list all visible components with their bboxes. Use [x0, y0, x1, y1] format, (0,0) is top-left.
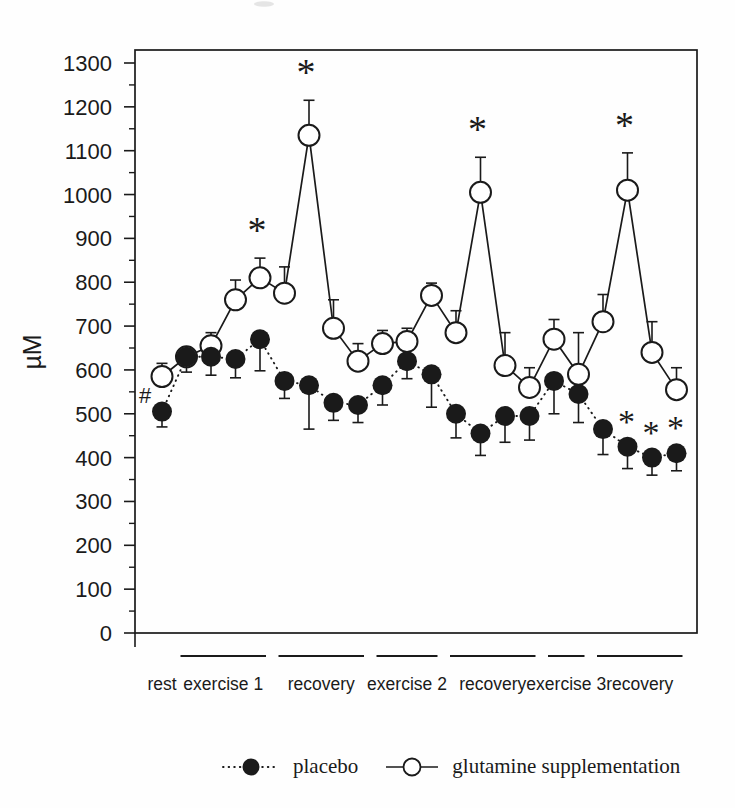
- y-axis-tick-label: 100: [75, 577, 112, 602]
- phase-label: recovery: [288, 674, 355, 694]
- placebo-series-key-icon: [222, 755, 280, 779]
- glutamine-data-point: [421, 285, 442, 306]
- legend-label-placebo: placebo: [293, 754, 358, 779]
- y-axis-tick-label: 1300: [63, 51, 112, 76]
- glutamine-significance-asterisk: *: [468, 108, 487, 150]
- y-axis-tick-label: 200: [75, 533, 112, 558]
- hash-annotation: #: [139, 383, 152, 408]
- glutamine-data-point: [274, 283, 295, 304]
- y-axis-title: µM: [18, 334, 46, 369]
- y-axis-tick-label: 400: [75, 446, 112, 471]
- placebo-data-point: [177, 347, 197, 367]
- y-axis-tick-label: 300: [75, 489, 112, 514]
- glutamine-data-point: [495, 355, 516, 376]
- glutamine-data-point: [642, 342, 663, 363]
- placebo-data-point: [495, 406, 515, 426]
- placebo-data-point: [397, 351, 417, 371]
- placebo-data-point: [250, 329, 270, 349]
- glutamine-data-point: [152, 366, 173, 387]
- phase-label: exercise 3: [526, 674, 606, 694]
- scan-artifact: [254, 1, 274, 7]
- glutamine-data-point: [250, 267, 271, 288]
- placebo-data-point: [471, 424, 491, 444]
- phase-label: recovery: [606, 674, 673, 694]
- glutamine-data-point: [299, 125, 320, 146]
- glutamine-data-point: [544, 329, 565, 350]
- glutamine-data-point: [568, 364, 589, 385]
- glutamine-data-point: [470, 182, 491, 203]
- glutamine-series-key-icon: [385, 755, 439, 779]
- placebo-data-point: [348, 395, 368, 415]
- placebo-data-point: [152, 402, 172, 422]
- y-axis-tick-label: 0: [100, 621, 112, 646]
- placebo-data-point: [373, 375, 393, 395]
- legend-label-glutamine: glutamine supplementation: [452, 754, 680, 779]
- glutamine-data-point: [519, 377, 540, 398]
- y-axis-tick-label: 500: [75, 402, 112, 427]
- y-axis-tick-label: 1200: [63, 95, 112, 120]
- y-axis-tick-label: 1000: [63, 183, 112, 208]
- glutamine-data-point: [225, 289, 246, 310]
- placebo-data-point: [422, 364, 442, 384]
- placebo-data-point: [593, 419, 613, 439]
- chart: 0100200300400500600700800900100011001200…: [0, 0, 735, 735]
- glutamine-data-point: [348, 351, 369, 372]
- y-axis-tick-label: 800: [75, 270, 112, 295]
- placebo-data-point: [201, 347, 221, 367]
- y-axis-tick-label: 600: [75, 358, 112, 383]
- figure-page: 0100200300400500600700800900100011001200…: [0, 0, 735, 808]
- placebo-data-point: [446, 404, 466, 424]
- y-axis-tick-label: 900: [75, 226, 112, 251]
- plot-layer: 0100200300400500600700800900100011001200…: [63, 1, 697, 694]
- phase-label: recovery: [459, 674, 526, 694]
- phase-label: exercise 1: [183, 674, 263, 694]
- glutamine-significance-asterisk: *: [248, 209, 267, 251]
- legend-item-placebo: placebo: [222, 754, 358, 779]
- placebo-significance-asterisk: *: [618, 403, 635, 440]
- legend-item-glutamine: glutamine supplementation: [385, 754, 680, 779]
- placebo-significance-asterisk: *: [667, 409, 684, 446]
- glutamine-significance-asterisk: *: [297, 51, 316, 93]
- glutamine-data-point: [397, 331, 418, 352]
- glutamine-significance-asterisk: *: [615, 104, 634, 146]
- glutamine-data-point: [617, 180, 638, 201]
- y-axis-tick-label: 1100: [65, 139, 112, 164]
- glutamine-data-point: [666, 379, 687, 400]
- chart-legend: placebo glutamine supplementation: [222, 754, 680, 779]
- placebo-data-point: [275, 371, 295, 391]
- placebo-data-point: [569, 384, 589, 404]
- phase-label: exercise 2: [367, 674, 447, 694]
- glutamine-data-point: [372, 333, 393, 354]
- placebo-data-point: [520, 406, 540, 426]
- phase-label: rest: [147, 674, 176, 694]
- placebo-significance-asterisk: *: [643, 414, 660, 451]
- glutamine-data-point: [446, 322, 467, 343]
- y-axis-tick-label: 700: [75, 314, 112, 339]
- placebo-data-point: [324, 393, 344, 413]
- placebo-data-point: [544, 371, 564, 391]
- placebo-data-point: [299, 375, 319, 395]
- placebo-data-point: [226, 349, 246, 369]
- glutamine-data-point: [323, 318, 344, 339]
- glutamine-data-point: [593, 311, 614, 332]
